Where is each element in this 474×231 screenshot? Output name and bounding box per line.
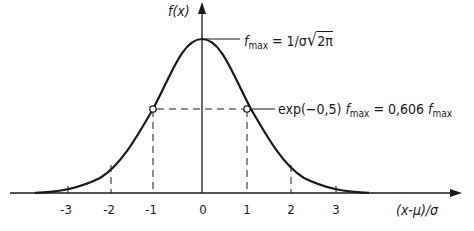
x-tick-label: 1 [243,203,250,216]
x-tick-label: -3 [60,203,72,216]
x-tick-label: 0 [199,203,206,216]
x-tick-label: -2 [103,203,115,216]
x-tick-label: -1 [145,203,157,216]
y-axis-label: f(x) [168,4,190,18]
x-tick-label: 3 [332,203,339,216]
y-axis-arrow [198,2,206,14]
inflection-point-right [244,106,250,112]
x-axis-label: (x-μ)/σ [396,203,438,217]
x-tick-label: 2 [287,203,294,216]
x-axis-arrow [450,189,462,197]
peak-annotation: fmax = 1/σ√2π [244,31,333,51]
inflection-annotation: exp(−0,5) fmax = 0,606 fmax [278,102,452,119]
inflection-point-left [150,106,156,112]
